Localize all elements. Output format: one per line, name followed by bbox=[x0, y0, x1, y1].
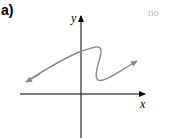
x-axis-label: x bbox=[139, 97, 146, 111]
graph: x y bbox=[0, 0, 172, 138]
curve bbox=[27, 47, 137, 81]
y-axis-label: y bbox=[70, 11, 77, 25]
curve-start-arrow bbox=[26, 74, 40, 82]
